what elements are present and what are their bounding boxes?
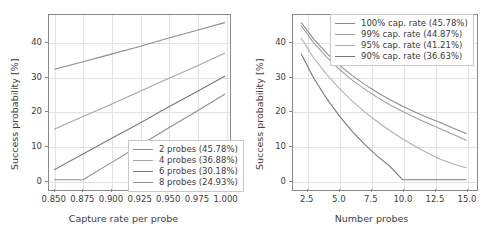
legend-item: 8 probes (24.93%) bbox=[133, 177, 238, 188]
legend-label: 2 probes (45.78%) bbox=[159, 144, 238, 155]
chart-panel-right: 2.55.07.510.012.515.0010203040 Success p… bbox=[248, 0, 495, 239]
legend-line-swatch bbox=[133, 149, 153, 150]
series-line-0 bbox=[55, 23, 225, 70]
y-tick-mark bbox=[289, 111, 292, 112]
y-tick-mark bbox=[289, 146, 292, 147]
y-tick-mark bbox=[289, 181, 292, 182]
y-tick-mark bbox=[45, 111, 48, 112]
x-axis-label-right: Number probes bbox=[248, 213, 495, 224]
legend-line-swatch bbox=[335, 34, 355, 35]
legend-right: 100% cap. rate (45.78%)99% cap. rate (44… bbox=[330, 14, 474, 66]
x-tick-mark bbox=[467, 189, 468, 192]
y-tick-label: 40 bbox=[268, 37, 286, 47]
legend-line-swatch bbox=[335, 23, 355, 24]
y-tick-label: 0 bbox=[24, 176, 42, 186]
figure-two-panel-line-charts: 0.8500.8750.9000.9250.9500.9751.00001020… bbox=[0, 0, 495, 239]
legend-label: 8 probes (24.93%) bbox=[159, 177, 238, 188]
legend-line-swatch bbox=[335, 45, 355, 46]
y-tick-label: 40 bbox=[24, 37, 42, 47]
legend-label: 4 probes (36.88%) bbox=[159, 155, 238, 166]
y-tick-label: 10 bbox=[268, 141, 286, 151]
legend-item: 2 probes (45.78%) bbox=[133, 144, 238, 155]
legend-label: 100% cap. rate (45.78%) bbox=[361, 18, 468, 29]
y-tick-mark bbox=[289, 42, 292, 43]
legend-label: 6 probes (30.18%) bbox=[159, 166, 238, 177]
y-tick-label: 20 bbox=[24, 106, 42, 116]
x-tick-mark bbox=[82, 189, 83, 192]
series-line-1 bbox=[55, 53, 225, 129]
y-tick-label: 10 bbox=[24, 141, 42, 151]
x-tick-mark bbox=[54, 189, 55, 192]
legend-label: 95% cap. rate (41.21%) bbox=[361, 40, 462, 51]
y-axis-label-right: Success probability [%] bbox=[254, 59, 265, 170]
y-tick-mark bbox=[45, 42, 48, 43]
legend-label: 99% cap. rate (44.87%) bbox=[361, 29, 462, 40]
legend-item: 95% cap. rate (41.21%) bbox=[335, 40, 468, 51]
y-tick-label: 20 bbox=[268, 106, 286, 116]
y-tick-mark bbox=[45, 77, 48, 78]
legend-item: 6 probes (30.18%) bbox=[133, 166, 238, 177]
legend-left: 2 probes (45.78%)4 probes (36.88%)6 prob… bbox=[128, 140, 244, 192]
legend-item: 99% cap. rate (44.87%) bbox=[335, 29, 468, 40]
legend-line-swatch bbox=[133, 171, 153, 172]
y-tick-mark bbox=[289, 77, 292, 78]
x-tick-mark bbox=[339, 189, 340, 192]
x-tick-mark bbox=[111, 189, 112, 192]
y-tick-label: 30 bbox=[24, 72, 42, 82]
legend-label: 90% cap. rate (36.63%) bbox=[361, 51, 462, 62]
x-tick-mark bbox=[403, 189, 404, 192]
legend-line-swatch bbox=[133, 160, 153, 161]
legend-item: 90% cap. rate (36.63%) bbox=[335, 51, 468, 62]
legend-item: 100% cap. rate (45.78%) bbox=[335, 18, 468, 29]
y-tick-mark bbox=[45, 146, 48, 147]
legend-line-swatch bbox=[335, 56, 355, 57]
x-tick-mark bbox=[435, 189, 436, 192]
legend-item: 4 probes (36.88%) bbox=[133, 155, 238, 166]
x-axis-label-left: Capture rate per probe bbox=[0, 213, 247, 224]
y-tick-mark bbox=[45, 181, 48, 182]
y-tick-label: 30 bbox=[268, 72, 286, 82]
x-tick-label: 15.0 bbox=[447, 194, 487, 204]
y-axis-label-left: Success probability [%] bbox=[9, 59, 20, 170]
legend-line-swatch bbox=[133, 182, 153, 183]
x-tick-label: 1.000 bbox=[206, 194, 246, 204]
x-tick-mark bbox=[307, 189, 308, 192]
y-tick-label: 0 bbox=[268, 176, 286, 186]
x-tick-mark bbox=[371, 189, 372, 192]
chart-panel-left: 0.8500.8750.9000.9250.9500.9751.00001020… bbox=[0, 0, 247, 239]
